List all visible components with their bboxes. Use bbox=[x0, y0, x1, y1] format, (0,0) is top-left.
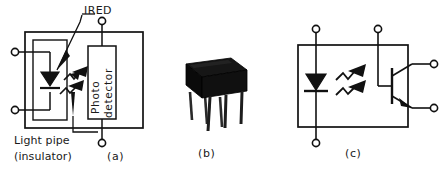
figure-canvas: Photo detector bbox=[0, 0, 448, 172]
terminal-anode-c[interactable] bbox=[312, 25, 319, 32]
ired-leader-line bbox=[57, 14, 95, 70]
light-ray-lower-c bbox=[336, 80, 366, 95]
light-pipe-callout-line2: (insulator) bbox=[14, 150, 72, 163]
terminal-cathode-c[interactable] bbox=[312, 139, 319, 146]
panel-c-caption: (c) bbox=[345, 147, 361, 160]
light-pipe-callout-line1: Light pipe bbox=[14, 134, 70, 147]
transistor-emitter-arrow bbox=[399, 98, 412, 108]
terminal-base-c[interactable] bbox=[374, 25, 381, 32]
transistor-collector-lead bbox=[392, 64, 412, 76]
photo-detector-label-line1: Photo bbox=[89, 81, 101, 114]
panel-c bbox=[298, 25, 438, 146]
light-ray-lower-a bbox=[60, 80, 84, 94]
panel-a: Photo detector bbox=[11, 14, 143, 147]
panel-b-caption: (b) bbox=[198, 147, 215, 160]
light-ray-upper-c bbox=[336, 64, 366, 80]
terminal-emitter-c[interactable] bbox=[430, 104, 437, 111]
ired-diode-triangle-c bbox=[306, 74, 326, 90]
terminal-cathode-a[interactable] bbox=[11, 106, 18, 113]
terminal-collector-c[interactable] bbox=[430, 60, 437, 67]
photo-detector-label-line2: detector bbox=[102, 68, 114, 118]
terminal-detector-bottom[interactable] bbox=[98, 139, 105, 146]
terminal-anode-a[interactable] bbox=[11, 48, 18, 55]
terminal-detector-top[interactable] bbox=[98, 17, 105, 24]
panel-b bbox=[186, 58, 247, 131]
light-pipe-arrow bbox=[71, 92, 75, 116]
panel-a-caption: (a) bbox=[107, 150, 124, 163]
dip-pins-front bbox=[208, 92, 242, 131]
ired-diode-triangle-a bbox=[41, 72, 59, 86]
ired-callout-label: IRED bbox=[84, 4, 112, 17]
